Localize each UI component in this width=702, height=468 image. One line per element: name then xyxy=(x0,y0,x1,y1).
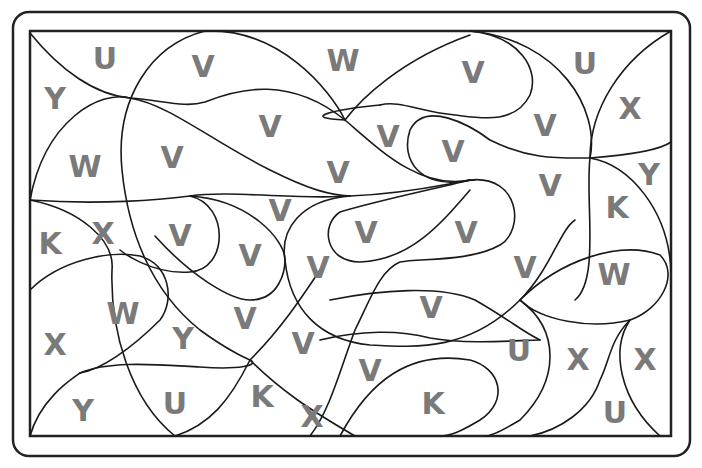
region-letter[interactable]: Y xyxy=(43,81,67,116)
region-letter[interactable]: U xyxy=(163,386,187,421)
region-letter[interactable]: V xyxy=(233,301,257,336)
region-letter[interactable]: Y xyxy=(71,393,95,428)
region-letter[interactable]: V xyxy=(538,168,562,203)
region-letter[interactable]: K xyxy=(421,386,446,421)
region-letter[interactable]: Y xyxy=(637,157,661,192)
region-letter[interactable]: U xyxy=(507,333,531,368)
region-letter[interactable]: V xyxy=(306,250,330,285)
region-letter[interactable]: V xyxy=(454,215,478,250)
region-letter[interactable]: V xyxy=(533,108,557,143)
region-letter[interactable]: X xyxy=(91,216,114,251)
region-letter[interactable]: U xyxy=(93,41,117,76)
region-letter[interactable]: V xyxy=(326,155,350,190)
region-letter[interactable]: V xyxy=(441,134,465,169)
region-letter[interactable]: V xyxy=(291,326,315,361)
region-letter[interactable]: V xyxy=(419,290,443,325)
region-letter[interactable]: V xyxy=(461,55,485,90)
region-letter[interactable]: U xyxy=(603,395,627,430)
region-letter[interactable]: V xyxy=(238,238,262,273)
region-letter[interactable]: V xyxy=(358,353,382,388)
region-letter[interactable]: V xyxy=(354,215,378,250)
region-letter[interactable]: U xyxy=(573,46,597,81)
region-letter[interactable]: V xyxy=(160,140,184,175)
region-letter[interactable]: K xyxy=(38,226,63,261)
region-letter[interactable]: V xyxy=(513,250,537,285)
region-letter[interactable]: V xyxy=(268,193,292,228)
region-letters: U V W V U Y X V V V W V V V Y V K V X V … xyxy=(38,41,661,434)
region-letter[interactable]: W xyxy=(106,296,139,331)
region-letter[interactable]: X xyxy=(633,342,656,377)
region-letter[interactable]: W xyxy=(326,43,359,78)
region-letter[interactable]: X xyxy=(618,91,641,126)
coloring-puzzle: U V W V U Y X V V V W V V V Y V K V X V … xyxy=(0,0,702,468)
region-letter[interactable]: W xyxy=(68,149,101,184)
region-letter[interactable]: X xyxy=(300,399,323,434)
region-letter[interactable]: V xyxy=(376,119,400,154)
region-letter[interactable]: V xyxy=(168,218,192,253)
region-letter[interactable]: V xyxy=(191,49,215,84)
region-letter[interactable]: K xyxy=(250,379,275,414)
region-letter[interactable]: K xyxy=(605,190,630,225)
region-letter[interactable]: V xyxy=(258,109,282,144)
region-letter[interactable]: X xyxy=(43,327,66,362)
region-letter[interactable]: Y xyxy=(171,321,195,356)
region-letter[interactable]: X xyxy=(566,342,589,377)
region-letter[interactable]: W xyxy=(597,257,630,292)
